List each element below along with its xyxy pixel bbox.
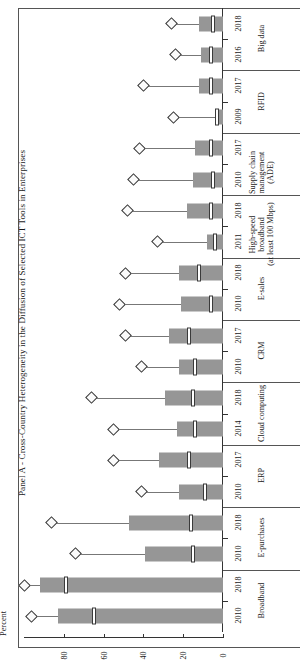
year-tick-label: 2018 <box>234 260 243 286</box>
category-separator <box>223 70 300 71</box>
year-tick-label: 2010 <box>234 603 243 629</box>
median-marker <box>211 15 215 32</box>
year-tick-label: 2014 <box>234 416 243 442</box>
observation-row <box>24 570 223 601</box>
max-marker-diamond <box>85 392 98 405</box>
observation-row <box>24 133 223 164</box>
box-bar <box>145 546 223 561</box>
value-tick-label: 0 <box>219 646 228 663</box>
whisker-line <box>52 523 130 524</box>
median-marker <box>191 389 195 406</box>
year-tick-label: 2017 <box>234 135 243 161</box>
median-marker <box>187 327 191 344</box>
category-label: RFID <box>257 70 266 132</box>
max-marker-diamond <box>119 267 132 280</box>
observation-row <box>24 351 223 382</box>
median-marker <box>203 483 207 500</box>
category-separator <box>223 320 300 321</box>
year-tick <box>223 351 228 352</box>
category-label: CRM <box>257 319 266 381</box>
max-marker-diamond <box>26 610 39 623</box>
observation-row <box>24 320 223 351</box>
whisker-line <box>139 148 195 149</box>
observation-row <box>24 70 223 101</box>
observation-row <box>24 538 223 569</box>
median-marker <box>193 421 197 438</box>
median-marker <box>215 109 219 126</box>
median-marker <box>213 233 217 250</box>
max-marker-diamond <box>165 17 178 30</box>
median-marker <box>209 77 213 94</box>
year-tick <box>223 226 228 227</box>
category-label: High-speedbroadband(at least 100 Mbps) <box>248 204 275 266</box>
year-tick-label: 2010 <box>234 166 243 192</box>
median-marker <box>209 296 213 313</box>
observation-row <box>24 507 223 538</box>
max-marker-diamond <box>113 298 126 311</box>
median-marker <box>189 514 193 531</box>
whisker-line <box>127 211 187 212</box>
observation-row <box>24 258 223 289</box>
median-marker <box>191 545 195 562</box>
whisker-line <box>157 242 207 243</box>
whisker-line <box>125 336 169 337</box>
max-marker-diamond <box>135 360 148 373</box>
category-label: Cloud computing <box>257 382 266 444</box>
median-marker <box>92 608 96 625</box>
box-bar <box>181 297 223 312</box>
value-tick <box>223 634 224 638</box>
year-tick <box>223 289 228 290</box>
observation-row <box>24 601 223 632</box>
observation-row <box>24 226 223 257</box>
category-separator <box>223 570 300 571</box>
year-tick <box>223 164 228 165</box>
median-marker <box>197 265 201 282</box>
category-label: Broadband <box>257 569 266 631</box>
observation-row <box>24 414 223 445</box>
value-axis-title: Percent <box>0 611 8 636</box>
category-separator <box>223 507 300 508</box>
year-tick <box>223 476 228 477</box>
category-label: E-purchases <box>257 507 266 569</box>
median-marker <box>209 46 213 63</box>
whisker-line <box>76 554 146 555</box>
median-marker <box>209 202 213 219</box>
category-separator <box>223 133 300 134</box>
median-marker <box>209 140 213 157</box>
year-tick-label: 2010 <box>234 478 243 504</box>
value-tick <box>183 634 184 638</box>
observation-row <box>24 382 223 413</box>
whisker-line <box>133 180 193 181</box>
category-label: Supply chainmanagement(ADE) <box>248 141 275 203</box>
max-marker-diamond <box>135 485 148 498</box>
max-marker-diamond <box>133 142 146 155</box>
value-tick <box>104 634 105 638</box>
box-bar <box>58 609 223 624</box>
value-tick-label: 80 <box>59 646 68 663</box>
whisker-line <box>114 460 160 461</box>
year-tick <box>223 414 228 415</box>
observation-row <box>24 39 223 70</box>
category-separator <box>223 445 300 446</box>
plot-area: Percent 020406080 <box>24 8 223 632</box>
value-tick-label: 60 <box>99 646 108 663</box>
observation-row <box>24 289 223 320</box>
value-tick-label: 20 <box>179 646 188 663</box>
box-bar <box>169 328 223 343</box>
max-marker-diamond <box>119 329 132 342</box>
observation-row <box>24 102 223 133</box>
year-tick-label: 2009 <box>234 104 243 130</box>
category-axis-line <box>24 637 224 638</box>
max-marker-diamond <box>45 516 58 529</box>
value-tick <box>143 634 144 638</box>
value-tick-label: 40 <box>139 646 148 663</box>
observation-row <box>24 8 223 39</box>
box-bar <box>129 515 223 530</box>
year-tick-label: 2010 <box>234 291 243 317</box>
year-tick-label: 2010 <box>234 541 243 567</box>
year-tick-label: 2017 <box>234 73 243 99</box>
value-tick <box>64 634 65 638</box>
whisker-line <box>125 273 179 274</box>
box-bar <box>179 484 223 499</box>
max-marker-diamond <box>137 80 150 93</box>
